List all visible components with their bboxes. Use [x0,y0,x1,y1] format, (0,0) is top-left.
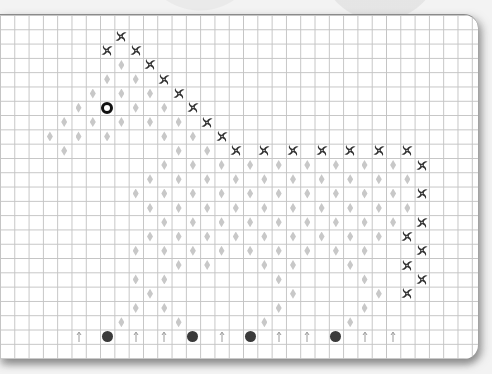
diamond-icon [243,158,257,172]
diamond-icon [157,101,171,115]
diamond-icon [172,315,186,329]
swirl-icon [200,115,214,129]
arrow-up-icon [129,330,143,344]
diamond-icon [257,172,271,186]
swirl-icon [157,72,171,86]
diamond-icon [386,215,400,229]
diamond-icon [286,258,300,272]
diamond-icon [272,244,286,258]
diamond-icon [157,187,171,201]
dot-icon [243,330,257,344]
swirl-icon [415,272,429,286]
diamond-icon [129,72,143,86]
diamond-icon [229,230,243,244]
diamond-icon [372,287,386,301]
swirl-icon [143,58,157,72]
swirl-icon [215,129,229,143]
diamond-icon [100,129,114,143]
arrow-up-icon [272,330,286,344]
diamond-icon [143,172,157,186]
diamond-icon [200,258,214,272]
diamond-icon [386,187,400,201]
diamond-icon [358,187,372,201]
diamond-icon [114,115,128,129]
diamond-icon [257,315,271,329]
diamond-icon [157,272,171,286]
diamond-icon [358,272,372,286]
diamond-icon [200,201,214,215]
swirl-icon [415,215,429,229]
diamond-icon [257,201,271,215]
diamond-icon [329,187,343,201]
diamond-icon [86,87,100,101]
diamond-icon [315,230,329,244]
swirl-icon [415,187,429,201]
diamond-icon [172,230,186,244]
diamond-icon [114,87,128,101]
swirl-icon [114,29,128,43]
diamond-icon [272,158,286,172]
diamond-icon [157,158,171,172]
swirl-icon [400,230,414,244]
diamond-icon [129,301,143,315]
diamond-icon [129,272,143,286]
diamond-icon [114,58,128,72]
diamond-icon [186,158,200,172]
diamond-icon [43,129,57,143]
diamond-icon [286,287,300,301]
swirl-icon [415,158,429,172]
diamond-icon [300,187,314,201]
arrow-up-icon [358,330,372,344]
swirl-icon [372,144,386,158]
diamond-icon [143,287,157,301]
arrow-up-icon [386,330,400,344]
diamond-icon [200,230,214,244]
diamond-icon [129,244,143,258]
diamond-icon [100,72,114,86]
diamond-icon [243,244,257,258]
diamond-icon [358,244,372,258]
arrow-up-icon [157,330,171,344]
swirl-icon [400,258,414,272]
diamond-icon [358,215,372,229]
diamond-icon [57,144,71,158]
arrow-up-icon [300,330,314,344]
diamond-icon [372,230,386,244]
diamond-icon [400,201,414,215]
diamond-icon [286,201,300,215]
diamond-icon [286,230,300,244]
diamond-icon [172,258,186,272]
arrow-up-icon [72,330,86,344]
diamond-icon [343,315,357,329]
diamond-icon [300,158,314,172]
diamond-icon [272,215,286,229]
dot-icon [186,330,200,344]
diamond-icon [272,272,286,286]
diamond-icon [57,115,71,129]
diamond-icon [257,258,271,272]
diamond-icon [143,87,157,101]
arrow-up-icon [215,330,229,344]
diamond-icon [186,187,200,201]
swirl-icon [129,44,143,58]
diamond-icon [243,187,257,201]
diamond-icon [200,172,214,186]
diamond-icon [186,129,200,143]
diamond-icon [372,172,386,186]
diamond-icon [172,115,186,129]
swirl-icon [229,144,243,158]
diamond-icon [172,144,186,158]
dot-icon [100,330,114,344]
diamond-icon [229,172,243,186]
diamond-icon [86,115,100,129]
diamond-icon [186,215,200,229]
chart-sheet [0,14,478,359]
diamond-icon [343,258,357,272]
stitch-grid [0,15,478,359]
diamond-icon [329,158,343,172]
diamond-icon [386,158,400,172]
diamond-icon [157,215,171,229]
swirl-icon [100,44,114,58]
diamond-icon [129,187,143,201]
diamond-icon [315,201,329,215]
